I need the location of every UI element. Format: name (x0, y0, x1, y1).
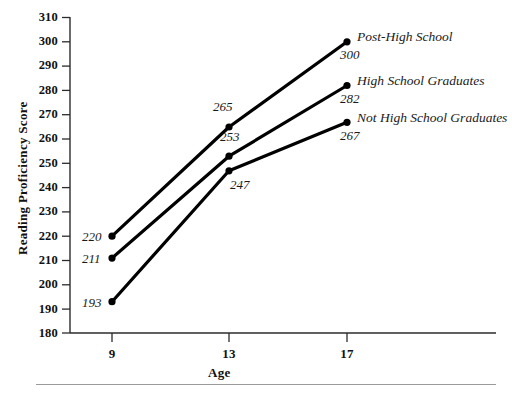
x-tick-label-17: 17 (332, 347, 362, 360)
x-tick-label-9: 9 (97, 347, 127, 360)
value-label-not-high-school-graduates-age9: 193 (82, 296, 102, 309)
value-label-high-school-graduates-age17: 282 (340, 92, 360, 105)
y-tick-label-210: 210 (24, 254, 58, 267)
value-label-high-school-graduates-age13: 253 (220, 130, 240, 143)
y-tick-label-200: 200 (24, 278, 58, 291)
line-chart-plot (0, 0, 512, 395)
y-tick-label-180: 180 (24, 327, 58, 340)
bottom-divider (36, 384, 496, 385)
value-label-post-high-school-age13: 265 (213, 100, 233, 113)
y-axis-ticks (62, 18, 70, 334)
series-label-post-high-school: Post-High School (357, 30, 453, 44)
y-tick-label-290: 290 (24, 59, 58, 72)
value-label-post-high-school-age17: 300 (340, 48, 360, 61)
value-label-post-high-school-age9: 220 (82, 230, 102, 243)
chart-figure: 310 300 290 280 270 260 250 240 230 220 … (0, 0, 512, 395)
value-label-high-school-graduates-age9: 211 (82, 252, 101, 265)
y-tick-label-300: 300 (24, 35, 58, 48)
series-label-not-high-school-graduates: Not High School Graduates (357, 111, 507, 125)
y-axis-title: Reading Proficiency Score (16, 101, 29, 255)
x-axis-title: Age (208, 366, 231, 379)
y-tick-label-280: 280 (24, 84, 58, 97)
x-tick-label-13: 13 (214, 347, 244, 360)
y-tick-label-190: 190 (24, 303, 58, 316)
x-axis-ticks (112, 333, 347, 342)
series-label-high-school-graduates: High School Graduates (357, 74, 485, 88)
value-label-not-high-school-graduates-age17: 267 (340, 129, 360, 142)
value-label-not-high-school-graduates-age13: 247 (230, 178, 250, 191)
series-not-high-school-graduates (108, 119, 350, 306)
y-tick-label-310: 310 (24, 11, 58, 24)
